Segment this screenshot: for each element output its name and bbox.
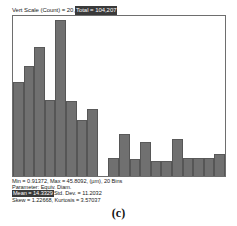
histogram-bar [151,161,162,176]
histogram-bar [130,159,141,176]
histogram-bin [77,16,88,176]
histogram-bar [172,139,183,176]
histogram-bin [140,16,151,176]
statistics-block: Min = 0.91372, Max = 45.8092, (µm), 20 B… [12,178,226,203]
histogram-bar [66,101,77,176]
histogram-bar [193,158,204,176]
histogram-bin [204,16,215,176]
histogram-bin [193,16,204,176]
histogram-bin [45,16,56,176]
histogram-bin [13,16,24,176]
figure-caption: (c) [0,206,237,220]
histogram-bar [34,47,45,176]
histogram-bar [204,158,215,176]
histogram-bin [87,16,98,176]
histogram-bars [13,16,225,176]
histogram-bar [55,20,66,176]
histogram-plot-area[interactable] [12,15,226,177]
histogram-bin [34,16,45,176]
histogram-bar [108,158,119,176]
histogram-bin [172,16,183,176]
histogram-bar [24,66,35,176]
histogram-bar [119,134,130,176]
histogram-bin [119,16,130,176]
histogram-bin [66,16,77,176]
histogram-bar [13,82,24,176]
vert-scale-label: Vert Scale (Count) = 20, [12,6,75,15]
histogram-bar [183,158,194,176]
total-count-highlight[interactable]: Total = 104,207 [75,6,117,15]
histogram-bin [108,16,119,176]
histogram-figure: Vert Scale (Count) = 20, Total = 104,207… [0,0,237,226]
histogram-bar [214,154,225,176]
histogram-bin [183,16,194,176]
histogram-bin [214,16,225,176]
histogram-bin [151,16,162,176]
histogram-bar [161,161,172,176]
histogram-bin [161,16,172,176]
histogram-bar [45,100,56,176]
histogram-bar [77,120,88,176]
histogram-bin [130,16,141,176]
histogram-bar [140,142,151,176]
skew-kurtosis-text: Skew = 1.22668, Kurtosis = 3.57037 [12,197,100,203]
histogram-bin [98,16,109,176]
histogram-bin [55,16,66,176]
stats-line-shape: Skew = 1.22668, Kurtosis = 3.57037 [12,197,226,203]
chart-header: Vert Scale (Count) = 20, Total = 104,207 [12,6,226,15]
histogram-bar [87,109,98,176]
histogram-bin [24,16,35,176]
